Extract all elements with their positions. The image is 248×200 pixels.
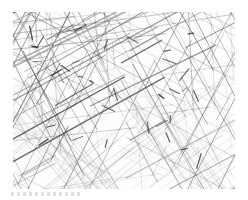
crosshatch-artwork [13,12,235,189]
page [0,0,248,200]
caption-smudge [11,192,83,196]
crosshatch-canvas [13,12,235,189]
